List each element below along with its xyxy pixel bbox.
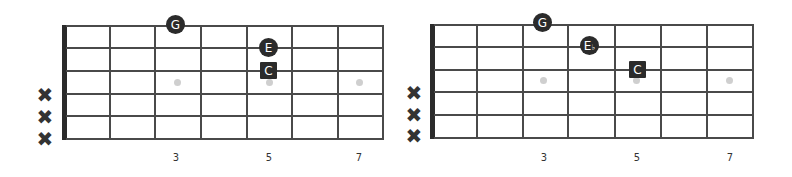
fret-number: 3 bbox=[166, 151, 186, 164]
fret-line bbox=[291, 25, 293, 140]
note-label: G bbox=[171, 18, 180, 32]
fretboard-diagram-right: ✖ ✖ ✖ G E♭ C 3 5 7 bbox=[396, 0, 792, 177]
fret-line bbox=[706, 24, 708, 139]
note-label: G bbox=[538, 16, 547, 30]
string-line bbox=[434, 114, 752, 116]
fret-inlay-dot bbox=[266, 79, 273, 86]
fret-line bbox=[522, 24, 524, 139]
note-label: E bbox=[265, 41, 273, 55]
fret-line bbox=[109, 25, 111, 140]
mute-x-icon: ✖ bbox=[36, 130, 54, 148]
note-marker-c-root: C bbox=[629, 61, 646, 78]
flat-icon: ♭ bbox=[591, 43, 595, 52]
fretboard-diagram-left: ✖ ✖ ✖ G E C 3 5 7 bbox=[0, 0, 396, 177]
string-line bbox=[434, 91, 752, 93]
nut bbox=[430, 24, 435, 139]
note-marker-g: G bbox=[533, 13, 552, 32]
fret-line bbox=[382, 25, 384, 140]
fret-inlay-dot bbox=[174, 79, 181, 86]
fret-number: 5 bbox=[259, 151, 279, 164]
note-marker-g: G bbox=[166, 15, 185, 34]
fret-number: 3 bbox=[534, 151, 554, 164]
fret-inlay-dot bbox=[633, 77, 640, 84]
string-line bbox=[434, 69, 752, 71]
note-label: E bbox=[584, 39, 592, 53]
note-marker-c-root: C bbox=[260, 62, 277, 79]
fret-line bbox=[567, 24, 569, 139]
fret-line bbox=[660, 24, 662, 139]
fret-inlay-dot bbox=[356, 79, 363, 86]
mute-x-icon: ✖ bbox=[405, 127, 423, 145]
fret-inlay-dot bbox=[726, 77, 733, 84]
fret-number: 5 bbox=[627, 151, 647, 164]
mute-x-icon: ✖ bbox=[36, 108, 54, 126]
note-marker-e-flat: E♭ bbox=[580, 36, 599, 55]
note-label: C bbox=[264, 64, 272, 78]
mute-x-icon: ✖ bbox=[405, 106, 423, 124]
fret-inlay-dot bbox=[540, 77, 547, 84]
nut bbox=[62, 25, 67, 140]
note-label: C bbox=[633, 63, 641, 77]
fret-line bbox=[476, 24, 478, 139]
fret-line bbox=[200, 25, 202, 140]
fret-number: 7 bbox=[720, 151, 740, 164]
fret-line bbox=[614, 24, 616, 139]
string-line bbox=[434, 24, 752, 26]
mute-x-icon: ✖ bbox=[36, 86, 54, 104]
note-marker-e: E bbox=[259, 38, 278, 57]
fret-line bbox=[154, 25, 156, 140]
mute-x-icon: ✖ bbox=[405, 84, 423, 102]
fret-number: 7 bbox=[349, 151, 369, 164]
fret-line bbox=[752, 24, 754, 139]
fretboard-grid bbox=[62, 25, 384, 141]
string-line bbox=[434, 137, 752, 139]
fret-line bbox=[337, 25, 339, 140]
fret-line bbox=[246, 25, 248, 140]
